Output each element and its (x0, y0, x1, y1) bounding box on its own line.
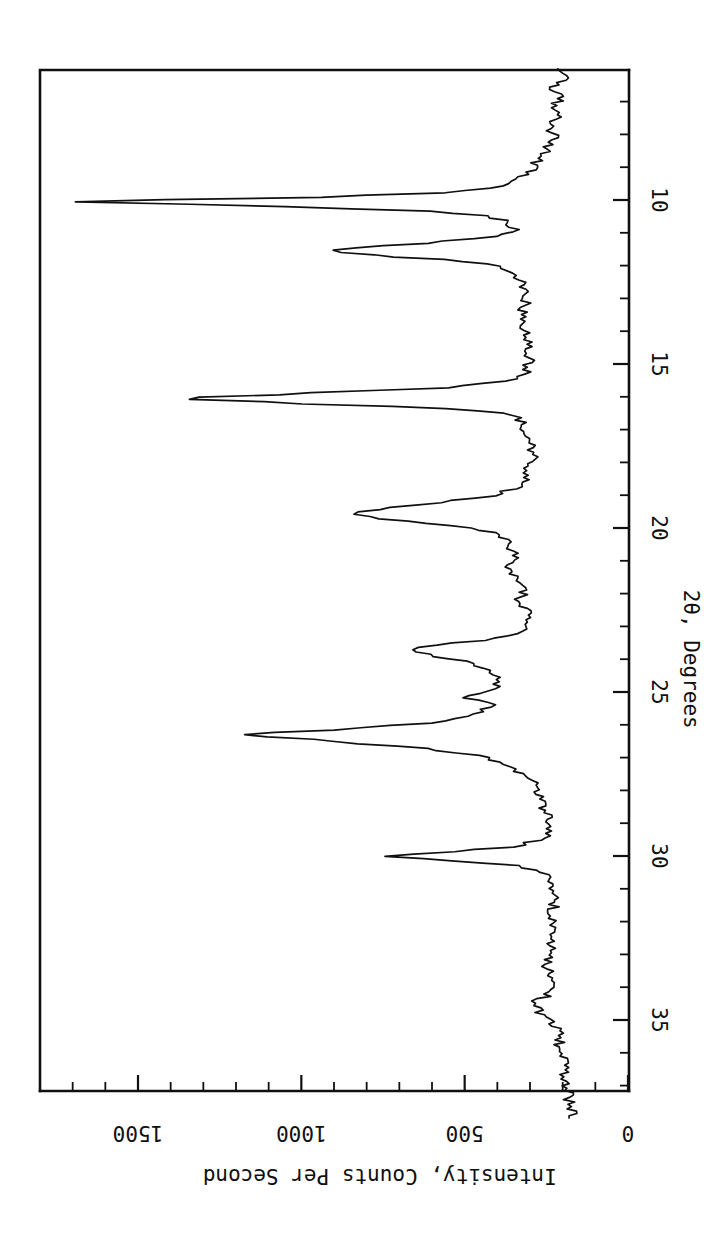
y-axis-title: Intensity, Counts Per Second (203, 1164, 557, 1188)
intensity-tick-label: 500 (446, 1121, 484, 1145)
intensity-tick-label: 1500 (113, 1121, 164, 1145)
two-theta-tick-label: 10 (647, 187, 671, 212)
figure-background (0, 0, 704, 1237)
two-theta-tick-label: 35 (647, 1007, 671, 1032)
two-theta-tick-label: 20 (647, 515, 671, 540)
two-theta-tick-label: 15 (647, 351, 671, 376)
x-axis-title: 2θ, Degrees (679, 590, 703, 729)
two-theta-tick-label: 25 (647, 679, 671, 704)
two-theta-tick-label: 30 (647, 843, 671, 868)
plot-canvas: 1015202530350500100015002θ, DegreesInten… (0, 0, 704, 1237)
xrd-figure: 1015202530350500100015002θ, DegreesInten… (0, 0, 704, 1237)
intensity-tick-label: 0 (622, 1121, 635, 1145)
intensity-tick-label: 1000 (276, 1121, 327, 1145)
